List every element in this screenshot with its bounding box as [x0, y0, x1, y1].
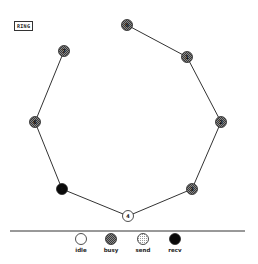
- ring-node[interactable]: 1: [182, 52, 193, 63]
- legend-label: recv: [168, 247, 182, 253]
- ring-node[interactable]: 4: [123, 211, 134, 222]
- node-id-label: 4: [126, 213, 130, 219]
- ring-node[interactable]: 0: [122, 20, 133, 31]
- ring-node[interactable]: 3: [187, 184, 198, 195]
- legend-label: idle: [75, 247, 87, 253]
- legend-item-recv: recv: [168, 234, 182, 254]
- ring-edge: [35, 51, 64, 122]
- node-id-label: 2: [219, 119, 223, 125]
- ring-node[interactable]: 7: [59, 46, 70, 57]
- ring-edge: [35, 122, 62, 189]
- busy-swatch-icon: [106, 234, 117, 245]
- legend: idlebusysendrecv: [75, 234, 182, 255]
- recv-swatch-icon: [170, 234, 181, 245]
- ring-edge: [128, 189, 192, 216]
- ring-node[interactable]: 2: [216, 117, 227, 128]
- send-swatch-icon: [138, 234, 149, 245]
- node-id-label: 5: [60, 186, 64, 192]
- ring-edge: [62, 189, 128, 216]
- legend-item-idle: idle: [75, 234, 87, 254]
- legend-label: send: [136, 247, 151, 253]
- node-id-label: 1: [185, 54, 189, 60]
- ring-node[interactable]: 5: [57, 184, 68, 195]
- node-id-label: 3: [190, 186, 194, 192]
- legend-label: busy: [104, 247, 119, 254]
- legend-item-busy: busy: [104, 234, 119, 255]
- ring-edge: [187, 57, 221, 122]
- node-id-label: 7: [62, 48, 66, 54]
- ring-diagram: 01234567 idlebusysendrecv: [0, 0, 258, 264]
- legend-item-send: send: [136, 234, 151, 254]
- node-id-label: 0: [125, 22, 129, 28]
- idle-swatch-icon: [76, 234, 87, 245]
- ring-edge: [127, 25, 187, 57]
- ring-node[interactable]: 6: [30, 117, 41, 128]
- ring-nodes: 01234567: [30, 20, 227, 222]
- ring-edge: [192, 122, 221, 189]
- node-id-label: 6: [33, 119, 37, 125]
